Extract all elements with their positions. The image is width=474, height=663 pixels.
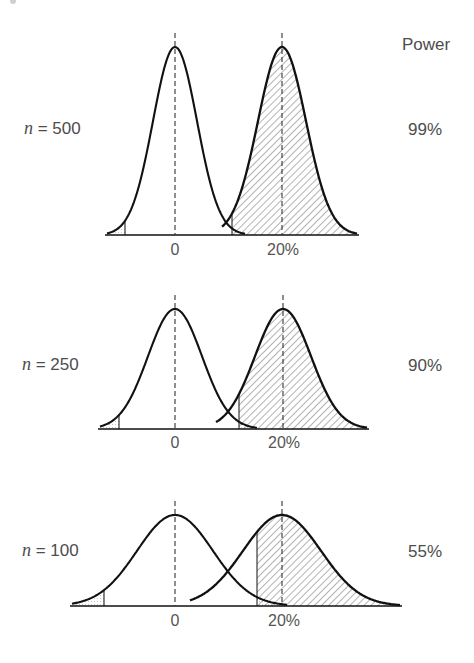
tick-alt-0: 20%: [267, 242, 299, 258]
n-value: = 100: [31, 541, 79, 560]
n-variable: n: [22, 540, 31, 560]
distribution-plots: [0, 0, 474, 663]
power-value-250: 90%: [408, 357, 442, 374]
panel-n250: [98, 295, 369, 429]
null-distribution-curve: [107, 47, 245, 234]
panel-n500: [105, 33, 359, 235]
n-variable: n: [24, 118, 33, 138]
n-variable: n: [22, 354, 31, 374]
sample-size-label-100: n = 100: [22, 541, 79, 559]
tick-null-0: 0: [171, 242, 180, 258]
power-curves-figure: Power n = 500 99% 0 20% n = 250 90% 0 20…: [0, 0, 474, 663]
sample-size-label-500: n = 500: [24, 119, 81, 137]
tick-alt-1: 20%: [268, 435, 300, 451]
sample-size-label-250: n = 250: [22, 355, 79, 373]
tick-alt-2: 20%: [268, 613, 300, 629]
power-column-header: Power: [402, 36, 450, 53]
tick-null-1: 0: [171, 435, 180, 451]
null-distribution-curve: [100, 309, 257, 428]
power-hatched-area: [239, 309, 367, 429]
n-value: = 250: [31, 355, 79, 374]
n-value: = 500: [33, 119, 81, 138]
tick-null-2: 0: [171, 613, 180, 629]
power-value-500: 99%: [408, 121, 442, 138]
power-value-100: 55%: [408, 543, 442, 560]
panel-n100: [70, 501, 402, 606]
